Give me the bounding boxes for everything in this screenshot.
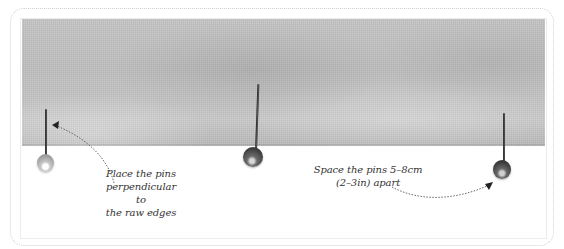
annotation-line: perpendicular to — [100, 180, 182, 206]
annotation-spacing: Space the pins 5–8cm (2–3in) apart — [312, 163, 424, 189]
annotation-perpendicular: Place the pins perpendicular to the raw … — [100, 167, 182, 219]
pin-head-icon — [37, 154, 54, 172]
pin-shaft — [503, 113, 505, 163]
pin-head-icon — [493, 160, 511, 179]
annotation-line: Place the pins — [100, 167, 182, 180]
pin-shaft — [45, 109, 47, 157]
annotation-line: Space the pins 5–8cm — [312, 163, 424, 176]
fabric-photo — [22, 19, 545, 146]
fabric-raw-edge — [22, 144, 545, 147]
annotation-line: (2–3in) apart — [312, 176, 424, 189]
annotation-line: the raw edges — [100, 206, 182, 219]
pin-head-icon — [243, 147, 263, 167]
